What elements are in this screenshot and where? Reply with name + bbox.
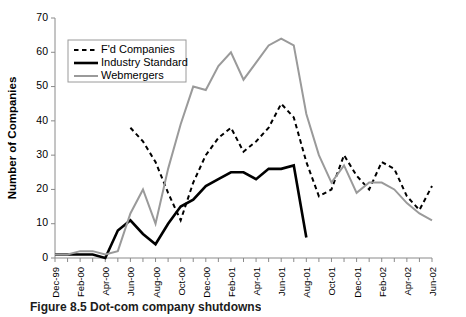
figure-caption: Figure 8.5 Dot-com company shutdowns bbox=[30, 300, 261, 314]
x-tick-label: Dec-00 bbox=[201, 267, 212, 298]
x-tick-label: Dec-99 bbox=[50, 267, 61, 298]
x-tick-label: Dec-01 bbox=[352, 267, 363, 298]
series-line-1 bbox=[55, 165, 306, 258]
x-tick-label: Aug-01 bbox=[301, 267, 312, 298]
x-tick-label: Feb-02 bbox=[377, 267, 388, 297]
x-tick-label: Jun-01 bbox=[276, 267, 287, 296]
y-tick-label: 30 bbox=[36, 148, 48, 160]
x-tick-label: Apr-00 bbox=[100, 267, 111, 296]
y-tick-label: 20 bbox=[36, 182, 48, 194]
legend-label-1: Industry Standard bbox=[101, 56, 188, 68]
x-tick-label: Oct-00 bbox=[176, 267, 187, 296]
legend-label-2: Webmergers bbox=[101, 69, 164, 81]
legend-label-0: F'd Companies bbox=[101, 43, 175, 55]
y-tick-label: 60 bbox=[36, 45, 48, 57]
line-chart: 010203040506070Number of CompaniesDec-99… bbox=[0, 0, 466, 317]
y-tick-label: 70 bbox=[36, 11, 48, 23]
x-tick-label: Jun-02 bbox=[427, 267, 438, 296]
x-tick-label: Apr-01 bbox=[251, 267, 262, 296]
x-tick-label: Feb-00 bbox=[75, 267, 86, 297]
y-tick-label: 10 bbox=[36, 216, 48, 228]
y-tick-label: 0 bbox=[42, 251, 48, 263]
x-tick-label: Jun-00 bbox=[125, 267, 136, 296]
x-tick-label: Aug-00 bbox=[151, 267, 162, 298]
y-axis-title: Number of Companies bbox=[6, 77, 18, 200]
x-tick-label: Feb-01 bbox=[226, 267, 237, 297]
x-tick-label: Oct-01 bbox=[326, 267, 337, 296]
figure-container: 010203040506070Number of CompaniesDec-99… bbox=[0, 0, 466, 317]
y-tick-label: 50 bbox=[36, 79, 48, 91]
series-line-0 bbox=[130, 104, 432, 221]
x-tick-label: Apr-02 bbox=[402, 267, 413, 296]
y-tick-label: 40 bbox=[36, 114, 48, 126]
